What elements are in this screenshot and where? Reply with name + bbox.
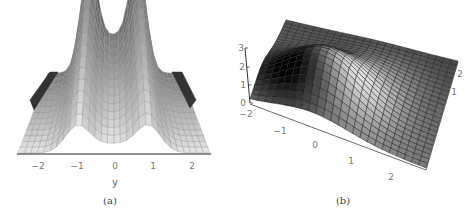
caption-a: (a)	[103, 195, 117, 206]
z-axis-tick-label: 1	[240, 80, 246, 90]
y-axis-tick-label: 2	[457, 69, 463, 79]
y-axis-tick-label: −2	[31, 161, 44, 171]
z-axis-tick-label: 2	[239, 62, 245, 72]
figure-panel-a: −2−1012 y (a)	[0, 0, 236, 218]
y-axis-tick-label: 0	[112, 161, 118, 171]
x-axis-tick-label: −2	[239, 109, 252, 119]
y-axis-tick-label: −1	[70, 161, 83, 171]
x-axis-tick-label: 1	[348, 156, 354, 166]
y-axis-tick-label: 0	[436, 105, 442, 115]
caption-b: (b)	[336, 195, 350, 206]
figure-panel-b: 3210−2−1012210−1−2 (b)	[236, 0, 476, 218]
y-axis-tick-label: 1	[451, 87, 457, 97]
x-axis-tick-label: −1	[273, 126, 286, 136]
x-axis-tick-label: 2	[388, 172, 394, 182]
x-axis-tick-label: 0	[312, 140, 318, 150]
y-axis-tick-label: 2	[189, 161, 195, 171]
y-axis-tick-label: 1	[150, 161, 156, 171]
y-axis-tick-label: −2	[407, 151, 420, 161]
z-axis-tick-label: 3	[238, 43, 244, 53]
y-axis-label: y	[112, 177, 118, 188]
z-axis-tick-label: 0	[240, 98, 246, 108]
y-axis-tick-label: −1	[415, 127, 428, 137]
